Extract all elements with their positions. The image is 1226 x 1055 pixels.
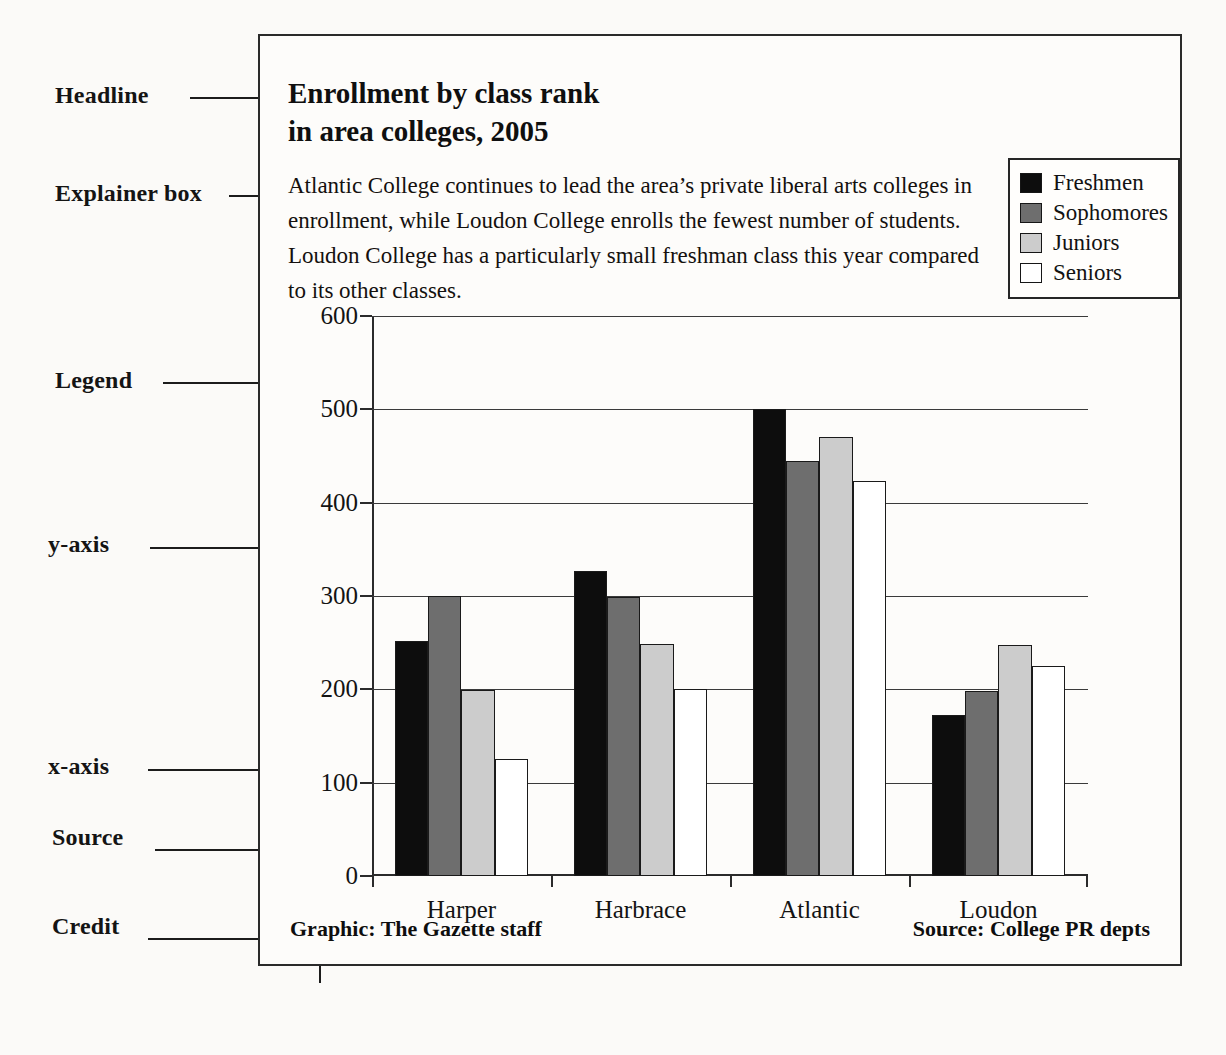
bar-group <box>574 316 706 876</box>
bar-chart: 0100200300400500600 HarperHarbraceAtlant… <box>288 308 1158 928</box>
bar-group <box>753 316 885 876</box>
bar-atlantic-freshmen[interactable] <box>753 409 786 876</box>
y-axis-tick <box>360 782 372 784</box>
y-axis-tick-label: 500 <box>321 395 359 423</box>
page-title: Enrollment by class rank in area college… <box>288 74 988 151</box>
legend-swatch-juniors-icon <box>1020 233 1042 253</box>
legend-item-sophomores[interactable]: Sophomores <box>1020 198 1168 228</box>
x-axis-tick <box>551 876 553 887</box>
legend-label-freshmen: Freshmen <box>1053 170 1144 196</box>
bar-harbrace-juniors[interactable] <box>640 644 673 876</box>
explainer-line-2: enrollment, while Loudon College enrolls… <box>288 204 988 239</box>
y-axis-tick <box>360 408 372 410</box>
legend-swatch-sophomores-icon <box>1020 203 1042 223</box>
x-axis-category-label-harbrace: Harbrace <box>595 896 687 924</box>
bar-group <box>395 316 527 876</box>
annotation-label-explainer-box: Explainer box <box>55 180 202 207</box>
explainer-line-4: to its other classes. <box>288 274 988 309</box>
explainer-line-3: Loudon College has a particularly small … <box>288 239 988 274</box>
bar-loudon-seniors[interactable] <box>1032 666 1065 876</box>
explainer-line-1: Atlantic College continues to lead the a… <box>288 169 988 204</box>
y-axis-tick <box>360 502 372 504</box>
y-axis-tick-label: 200 <box>321 675 359 703</box>
x-axis-tick <box>730 876 732 887</box>
explainer-box: Atlantic College continues to lead the a… <box>288 169 988 309</box>
bar-atlantic-seniors[interactable] <box>853 481 886 876</box>
legend-item-freshmen[interactable]: Freshmen <box>1020 168 1168 198</box>
y-axis-tick-label: 400 <box>321 489 359 517</box>
legend-item-seniors[interactable]: Seniors <box>1020 258 1168 288</box>
annotation-label-y-axis: y-axis <box>48 531 109 558</box>
bar-harbrace-seniors[interactable] <box>674 689 707 876</box>
bar-harper-sophomores[interactable] <box>428 596 461 876</box>
legend: FreshmenSophomoresJuniorsSeniors <box>1008 158 1180 299</box>
bar-group <box>932 316 1064 876</box>
y-axis-tick <box>360 315 372 317</box>
annotation-label-legend: Legend <box>55 367 132 394</box>
legend-label-juniors: Juniors <box>1053 230 1119 256</box>
graphic-frame: Enrollment by class rank in area college… <box>258 34 1182 966</box>
bar-harbrace-freshmen[interactable] <box>574 571 607 876</box>
annotation-label-headline: Headline <box>55 82 149 109</box>
y-axis-tick-label: 600 <box>321 302 359 330</box>
x-axis-tick <box>1086 876 1088 887</box>
y-axis-tick <box>360 688 372 690</box>
legend-label-sophomores: Sophomores <box>1053 200 1168 226</box>
legend-swatch-seniors-icon <box>1020 263 1042 283</box>
headline-line-2: in area colleges, 2005 <box>288 112 988 150</box>
annotation-label-credit: Credit <box>52 913 119 940</box>
bar-atlantic-juniors[interactable] <box>819 437 852 876</box>
bar-loudon-sophomores[interactable] <box>965 691 998 876</box>
y-axis-tick-labels: 0100200300400500600 <box>288 316 358 876</box>
legend-swatch-freshmen-icon <box>1020 173 1042 193</box>
legend-label-seniors: Seniors <box>1053 260 1122 286</box>
plot-area: HarperHarbraceAtlanticLoudon <box>372 316 1088 876</box>
annotation-label-source: Source <box>52 824 123 851</box>
bar-harper-freshmen[interactable] <box>395 641 428 876</box>
headline-line-1: Enrollment by class rank <box>288 74 988 112</box>
credit-text: Graphic: The Gazette staff <box>290 916 542 942</box>
y-axis-tick <box>360 595 372 597</box>
bar-harper-seniors[interactable] <box>495 759 528 876</box>
annotation-label-x-axis: x-axis <box>48 753 109 780</box>
legend-item-juniors[interactable]: Juniors <box>1020 228 1168 258</box>
y-axis-tick <box>360 875 372 877</box>
x-axis-category-label-atlantic: Atlantic <box>779 896 860 924</box>
source-text: Source: College PR depts <box>913 916 1150 942</box>
bar-loudon-freshmen[interactable] <box>932 715 965 876</box>
bar-harbrace-sophomores[interactable] <box>607 597 640 876</box>
y-axis-tick-label: 100 <box>321 769 359 797</box>
bar-atlantic-sophomores[interactable] <box>786 461 819 876</box>
bar-harper-juniors[interactable] <box>461 690 494 876</box>
x-axis-tick <box>372 876 374 887</box>
y-axis-tick-label: 300 <box>321 582 359 610</box>
x-axis-tick <box>909 876 911 887</box>
y-axis-tick-label: 0 <box>346 862 359 890</box>
bar-loudon-juniors[interactable] <box>998 645 1031 876</box>
